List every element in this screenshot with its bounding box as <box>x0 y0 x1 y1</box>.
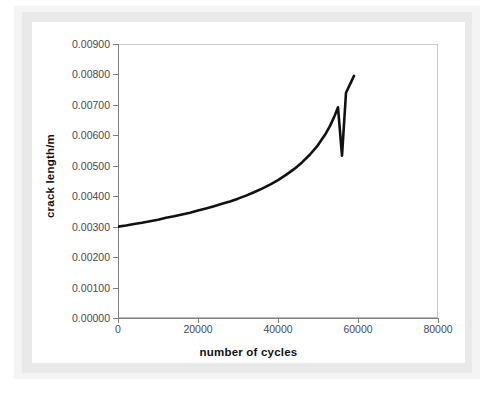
y-axis-title: crack length/m <box>44 96 56 256</box>
y-axis-title-wrapper: crack length/m <box>32 22 33 23</box>
x-axis-title: number of cycles <box>32 346 465 358</box>
y-tick-label: 0.00100 <box>40 283 110 293</box>
y-tick-label: 0.00000 <box>40 313 110 323</box>
x-tick-label: 80000 <box>423 324 452 335</box>
chart-screenshot: 0.000000.001000.002000.003000.004000.005… <box>0 0 497 395</box>
x-tick-mark <box>118 318 119 323</box>
y-tick-label: 0.00800 <box>40 69 110 79</box>
y-tick-label: 0.00900 <box>40 39 110 49</box>
x-tick-mark <box>278 318 279 323</box>
x-tick-mark <box>438 318 439 323</box>
series-path <box>118 76 354 227</box>
x-axis-tick-labels: 020000400006000080000 <box>32 324 465 344</box>
chart-card: 0.000000.001000.002000.003000.004000.005… <box>32 22 465 363</box>
x-tick-label: 20000 <box>183 324 212 335</box>
x-tick-mark <box>198 318 199 323</box>
x-tick-mark <box>358 318 359 323</box>
x-tick-label: 40000 <box>263 324 292 335</box>
x-tick-label: 0 <box>115 324 121 335</box>
crack-growth-line-series <box>118 44 438 318</box>
x-tick-label: 60000 <box>343 324 372 335</box>
